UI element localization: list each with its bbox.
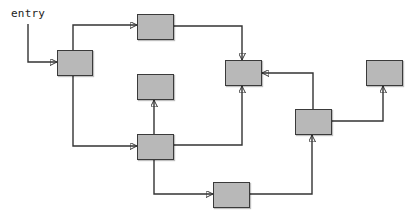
node-d <box>137 134 174 160</box>
edge-g-to-f <box>332 86 383 121</box>
edge-a-to-d <box>73 76 137 146</box>
control-flow-diagram: entry <box>0 0 413 218</box>
edge-d-to-h <box>154 160 213 194</box>
node-h <box>213 182 250 208</box>
edge-h-to-g <box>250 135 312 194</box>
node-g <box>295 109 332 135</box>
node-b <box>137 14 174 40</box>
node-a <box>57 50 93 76</box>
edge-b-to-e <box>174 26 242 60</box>
edge-g-to-e <box>262 73 313 109</box>
edges-layer <box>0 0 413 218</box>
node-c <box>137 74 174 100</box>
edge-d-to-e <box>174 86 242 145</box>
edge-entry-to-a <box>28 24 57 62</box>
edge-a-to-b <box>73 25 137 50</box>
node-e <box>225 60 262 86</box>
node-f <box>366 60 403 86</box>
